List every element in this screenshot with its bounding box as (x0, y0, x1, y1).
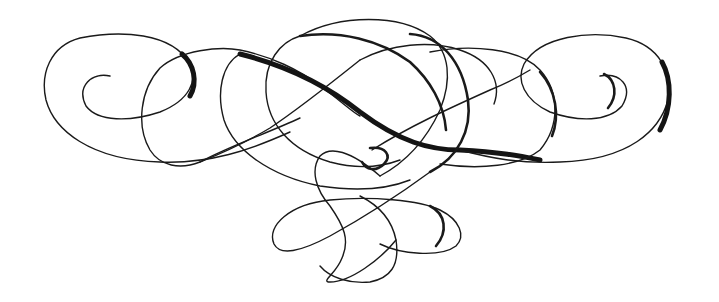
right-scroll (460, 35, 669, 163)
left-ovals (142, 36, 410, 189)
lower-loops (272, 148, 460, 283)
main-swash (240, 34, 540, 160)
calligraphic-flourish (0, 0, 719, 302)
